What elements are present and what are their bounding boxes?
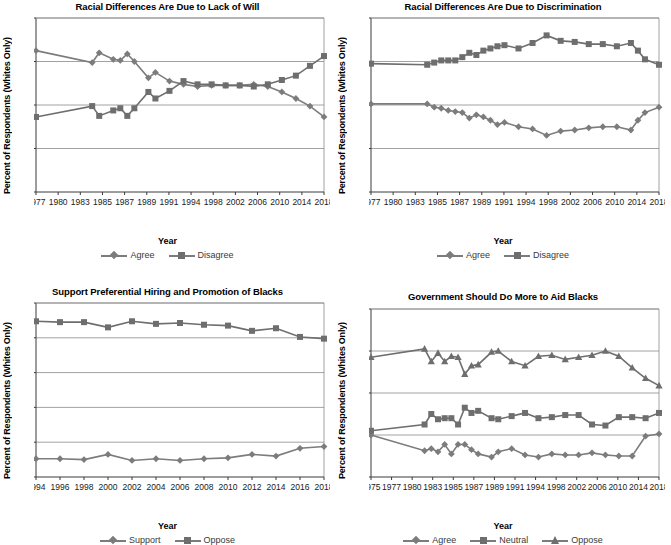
- diamond-marker-icon: [100, 536, 126, 545]
- legend-item-support[interactable]: Support: [100, 535, 161, 545]
- y-axis-label: Percent of Respondents (Whites Only): [337, 28, 347, 203]
- svg-text:2014: 2014: [629, 482, 648, 492]
- y-axis-label: Percent of Respondents (Whites Only): [2, 28, 12, 203]
- svg-text:1983: 1983: [406, 197, 425, 207]
- svg-text:2012: 2012: [243, 482, 262, 492]
- legend-item-oppose[interactable]: Oppose: [175, 535, 236, 545]
- svg-text:2006: 2006: [588, 482, 607, 492]
- y-axis-label: Percent of Respondents (Whites Only): [2, 313, 12, 488]
- svg-text:1994: 1994: [526, 482, 545, 492]
- svg-text:1980: 1980: [403, 482, 422, 492]
- svg-text:1994: 1994: [517, 197, 536, 207]
- legend-label: Disagree: [198, 250, 234, 260]
- svg-text:2014: 2014: [627, 197, 646, 207]
- svg-text:1998: 1998: [547, 482, 566, 492]
- svg-text:2010: 2010: [219, 482, 238, 492]
- legend-item-agree[interactable]: Agree: [403, 535, 456, 545]
- svg-text:1998: 1998: [75, 482, 94, 492]
- legend-label: Agree: [130, 250, 154, 260]
- legend-item-agree[interactable]: Agree: [101, 250, 154, 260]
- diamond-marker-icon: [403, 536, 429, 545]
- legend-item-neutral[interactable]: Neutral: [470, 535, 528, 545]
- svg-text:1983: 1983: [71, 197, 90, 207]
- svg-text:2010: 2010: [608, 482, 627, 492]
- x-axis-label: Year: [335, 236, 671, 246]
- svg-text:1994: 1994: [34, 482, 46, 492]
- svg-text:1975: 1975: [369, 482, 381, 492]
- svg-text:2018: 2018: [650, 482, 665, 492]
- legend: Agree Disagree: [335, 250, 671, 260]
- panel-top-right: Racial Differences Are Due to Discrimina…: [335, 0, 671, 269]
- legend-item-disagree[interactable]: Disagree: [169, 250, 234, 260]
- x-axis-label: Year: [335, 521, 671, 531]
- panel-top-left: Racial Differences Are Due to Lack of Wi…: [0, 0, 335, 269]
- square-marker-icon: [470, 536, 496, 545]
- chart-title: Support Preferential Hiring and Promotio…: [0, 286, 335, 297]
- svg-text:2018: 2018: [315, 197, 330, 207]
- svg-text:2008: 2008: [195, 482, 214, 492]
- svg-text:1977: 1977: [382, 482, 401, 492]
- panel-bottom-left: Support Preferential Hiring and Promotio…: [0, 269, 335, 538]
- svg-text:2006: 2006: [583, 197, 602, 207]
- x-axis-label: Year: [0, 521, 335, 531]
- chart-title: Racial Differences Are Due to Lack of Wi…: [0, 1, 335, 12]
- svg-text:1996: 1996: [51, 482, 70, 492]
- svg-text:1980: 1980: [49, 197, 68, 207]
- legend: Agree Disagree: [0, 250, 335, 260]
- legend-label: Support: [129, 535, 161, 545]
- y-axis-label: Percent of Respondents (Whites Only): [337, 313, 347, 488]
- svg-text:1987: 1987: [464, 482, 483, 492]
- svg-text:2014: 2014: [292, 197, 311, 207]
- svg-text:2018: 2018: [650, 197, 665, 207]
- svg-text:1998: 1998: [204, 197, 223, 207]
- plot-area: 0204060801977198019831985198719891991199…: [369, 14, 665, 214]
- svg-text:1977: 1977: [369, 197, 381, 207]
- svg-text:1980: 1980: [384, 197, 403, 207]
- legend: Support Oppose: [0, 535, 335, 545]
- svg-text:1989: 1989: [485, 482, 504, 492]
- triangle-marker-icon: [542, 536, 568, 545]
- svg-text:1983: 1983: [423, 482, 442, 492]
- legend-label: Oppose: [571, 535, 603, 545]
- legend-label: Agree: [432, 535, 456, 545]
- svg-text:1991: 1991: [159, 197, 178, 207]
- svg-text:1987: 1987: [450, 197, 469, 207]
- svg-text:2018: 2018: [315, 482, 330, 492]
- legend-label: Agree: [466, 250, 490, 260]
- svg-text:2002: 2002: [226, 197, 245, 207]
- svg-text:2006: 2006: [171, 482, 190, 492]
- diamond-marker-icon: [437, 251, 463, 260]
- svg-text:1991: 1991: [506, 482, 525, 492]
- legend-label: Disagree: [533, 250, 569, 260]
- legend-item-disagree[interactable]: Disagree: [504, 250, 569, 260]
- panel-bottom-right: Government Should Do More to Aid Blacks …: [335, 269, 671, 538]
- svg-text:1994: 1994: [182, 197, 201, 207]
- svg-text:1985: 1985: [428, 197, 447, 207]
- diamond-marker-icon: [101, 251, 127, 260]
- square-marker-icon: [504, 251, 530, 260]
- svg-text:1977: 1977: [34, 197, 46, 207]
- svg-text:1989: 1989: [137, 197, 156, 207]
- legend-item-oppose[interactable]: Oppose: [542, 535, 603, 545]
- svg-text:2010: 2010: [605, 197, 624, 207]
- svg-text:2002: 2002: [567, 482, 586, 492]
- legend-label: Neutral: [499, 535, 528, 545]
- svg-text:2006: 2006: [248, 197, 267, 207]
- svg-text:2010: 2010: [270, 197, 289, 207]
- plot-area: 0204060801977198019831985198719891991199…: [34, 14, 330, 214]
- svg-text:2004: 2004: [147, 482, 166, 492]
- svg-text:1998: 1998: [539, 197, 558, 207]
- svg-text:2016: 2016: [291, 482, 310, 492]
- svg-text:1991: 1991: [494, 197, 513, 207]
- chart-title: Racial Differences Are Due to Discrimina…: [335, 1, 671, 12]
- svg-text:1989: 1989: [472, 197, 491, 207]
- chart-title: Government Should Do More to Aid Blacks: [335, 291, 671, 302]
- legend-item-agree[interactable]: Agree: [437, 250, 490, 260]
- svg-text:2014: 2014: [267, 482, 286, 492]
- svg-text:2002: 2002: [561, 197, 580, 207]
- svg-text:2002: 2002: [123, 482, 142, 492]
- svg-text:1985: 1985: [93, 197, 112, 207]
- svg-text:2000: 2000: [99, 482, 118, 492]
- square-marker-icon: [169, 251, 195, 260]
